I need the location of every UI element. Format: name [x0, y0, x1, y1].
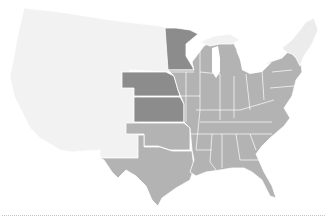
us-choropleth-map — [0, 0, 329, 220]
bottom-dotted-divider — [2, 215, 325, 216]
state-kansas[interactable] — [134, 97, 184, 122]
